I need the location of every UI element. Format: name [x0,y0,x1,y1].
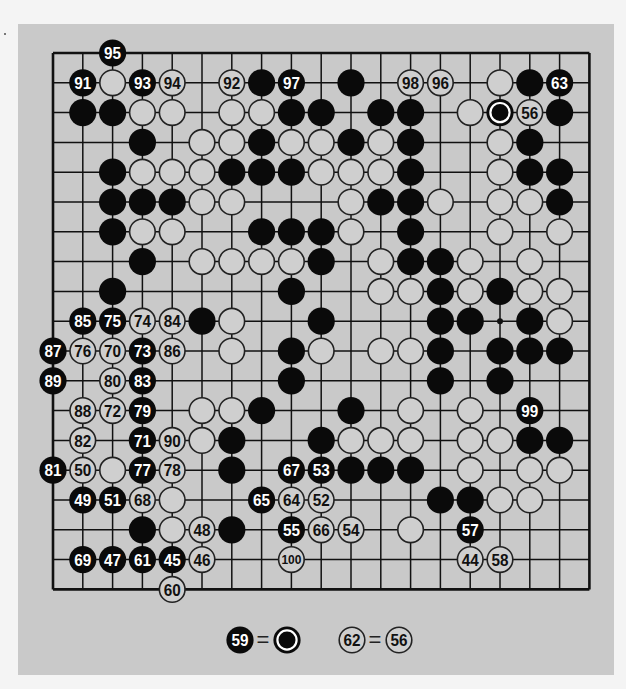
black-stone [486,278,513,305]
black-stone [278,367,305,394]
move-number: 44 [462,551,479,570]
white-stone [159,100,185,126]
black-stone [308,427,335,454]
white-stone [159,517,185,543]
black-stone: 67 [278,457,305,484]
white-stone: 50 [70,457,96,483]
white-stone [428,189,454,215]
stray-mark [4,33,6,35]
move-number: 53 [313,461,330,480]
move-number: 94 [164,74,181,93]
move-number: 56 [391,631,408,650]
white-stone: 72 [100,398,126,424]
black-stone [367,457,394,484]
move-number: 78 [164,461,181,480]
black-stone: 57 [457,516,484,543]
black-stone: 75 [99,308,126,335]
move-number: 86 [164,342,181,361]
legend-target-stone: 56 [386,627,412,653]
black-stone [546,99,573,126]
white-stone [517,487,543,513]
move-number: 54 [343,521,360,540]
move-number: 51 [104,491,121,510]
black-stone: 95 [99,39,126,66]
white-stone [547,457,573,483]
go-board: 9591939492979896635685757484877670738689… [18,24,614,675]
black-stone: 97 [278,69,305,96]
white-stone [189,398,215,424]
white-stone [517,457,543,483]
black-stone: 53 [308,457,335,484]
move-number: 56 [521,104,538,123]
black-stone: 91 [69,69,96,96]
black-stone [427,337,454,364]
white-stone: 68 [130,487,156,513]
go-diagram-figure: 9591939492979896635685757484877670738689… [18,24,614,675]
white-stone [159,487,185,513]
white-stone [398,338,424,364]
black-stone [516,308,543,335]
star-points [497,318,503,324]
move-number: 67 [283,461,300,480]
black-stone [278,99,305,126]
move-number: 63 [551,74,568,93]
white-stone [487,219,513,245]
white-stone: 90 [159,428,185,454]
black-stone [486,367,513,394]
move-number: 79 [134,402,151,421]
move-number: 66 [313,521,330,540]
black-stone: 63 [546,69,573,96]
move-number: 59 [232,631,249,650]
move-number: 98 [402,74,419,93]
white-stone [249,249,275,275]
black-stone [308,248,335,275]
white-stone [219,249,245,275]
move-number: 65 [253,491,270,510]
move-number: 100 [281,553,301,567]
move-number: 85 [74,312,91,331]
white-stone [130,219,156,245]
black-stone [129,516,156,543]
black-stone [218,159,245,186]
white-stone [368,279,394,305]
move-number: 75 [104,312,121,331]
black-stone [278,337,305,364]
white-stone [487,130,513,156]
black-stone: 85 [69,308,96,335]
white-stone [130,100,156,126]
black-stone [129,129,156,156]
black-stone: 55 [278,516,305,543]
black-stone [308,218,335,245]
white-stone [487,189,513,215]
legend-entry: 59= [226,626,300,653]
black-stone [248,159,275,186]
white-stone: 48 [189,517,215,543]
white-stone: 64 [279,487,305,513]
move-number: 50 [74,461,91,480]
black-stone [486,99,513,126]
move-number: 64 [283,491,300,510]
black-stone [397,129,424,156]
black-stone [99,99,126,126]
white-stone: 60 [159,577,185,603]
legend-target-stone [273,626,300,653]
black-stone [188,308,215,335]
move-number: 83 [134,372,151,391]
white-stone [457,457,483,483]
white-stone [457,100,483,126]
white-stone [189,159,215,185]
white-stone [368,338,394,364]
move-number: 55 [283,521,300,540]
black-stone [99,188,126,215]
black-stone [516,337,543,364]
black-stone: 69 [69,546,96,573]
move-number: 62 [344,631,361,650]
white-stone [189,189,215,215]
move-number: 52 [313,491,330,510]
white-stone: 96 [428,70,454,96]
equals-sign: = [369,627,382,652]
white-stone [249,100,275,126]
black-stone [367,188,394,215]
black-stone [99,159,126,186]
black-stone: 77 [129,457,156,484]
